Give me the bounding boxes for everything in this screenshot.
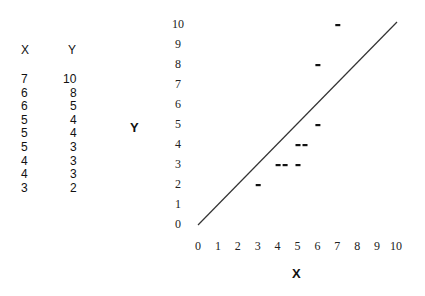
data-point-marker	[256, 184, 261, 186]
reference-line	[198, 22, 397, 225]
data-point-marker	[335, 24, 340, 26]
data-points	[256, 24, 341, 186]
data-point-marker	[276, 164, 281, 166]
data-point-marker	[296, 144, 301, 146]
data-point-marker	[296, 164, 301, 166]
data-point-marker	[315, 64, 320, 66]
data-point-marker	[283, 164, 288, 166]
data-point-marker	[315, 124, 320, 126]
data-point-marker	[303, 144, 308, 146]
plot-area	[0, 0, 425, 296]
